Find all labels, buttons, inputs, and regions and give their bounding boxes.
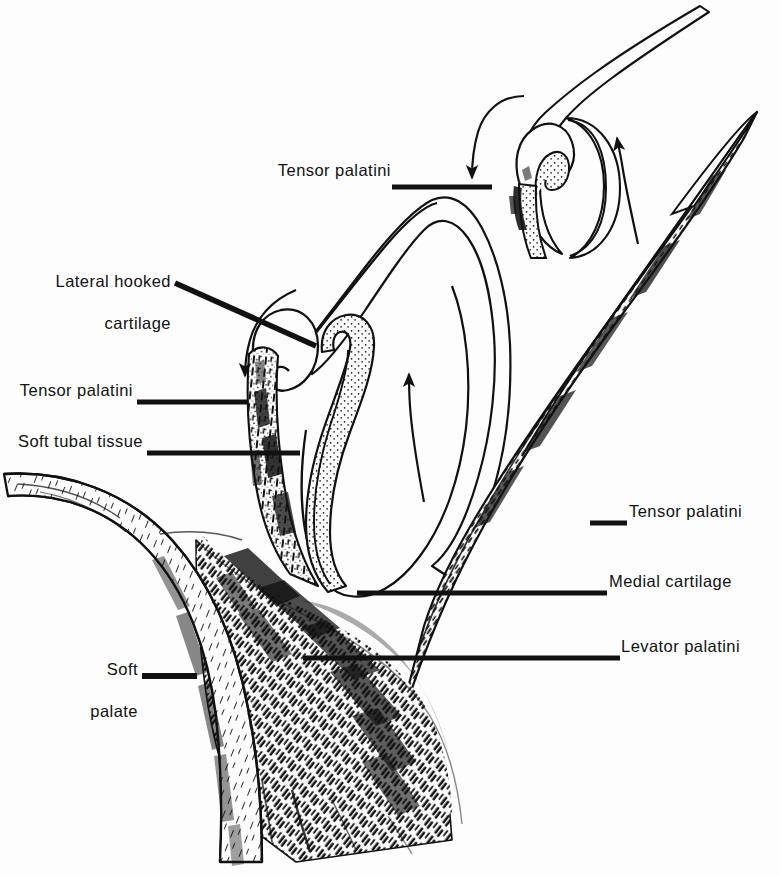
label-levator-palatini: Levator palatini (621, 636, 780, 657)
figure-canvas: Tensor palatini Lateral hooked cartilage… (0, 0, 780, 875)
label-tensor-palatini-right: Tensor palatini (629, 501, 779, 522)
label-soft-palate: Soft palate (20, 638, 138, 744)
label-line-2: palate (90, 702, 138, 720)
label-tensor-palatini-left: Tensor palatini (0, 380, 133, 401)
label-line-1: Soft (107, 660, 138, 678)
label-tensor-palatini-top: Tensor palatini (139, 160, 391, 181)
label-soft-tubal-tissue: Soft tubal tissue (0, 431, 143, 452)
arrow-up-middle (409, 374, 424, 502)
label-lateral-hooked-cartilage: Lateral hooked cartilage (31, 250, 171, 356)
label-line-1: Lateral hooked (56, 272, 171, 290)
label-medial-cartilage: Medial cartilage (609, 571, 779, 592)
label-line-2: cartilage (105, 314, 171, 332)
